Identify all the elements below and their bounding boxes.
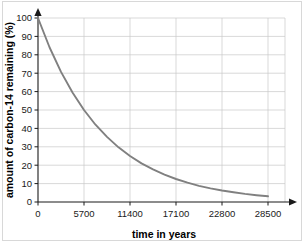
y-axis-tick-labels: 0102030405060708090100 [16,12,32,207]
chart-canvas: 0102030405060708090100 05700114001710022… [0,0,304,245]
x-tick-label: 5700 [73,208,94,219]
y-axis-title: amount of carbon-14 remaining (%) [3,22,15,198]
y-tick-label: 30 [21,141,32,152]
x-axis-tick-labels: 0570011400171002280028500 [35,208,281,219]
x-tick-label: 0 [35,208,40,219]
y-tick-label: 80 [21,49,32,60]
y-tick-label: 0 [27,196,32,207]
y-tick-label: 60 [21,86,32,97]
y-tick-label: 90 [21,31,32,42]
y-tick-label: 10 [21,178,32,189]
x-tick-label: 11400 [117,208,143,219]
y-tick-label: 40 [21,123,32,134]
y-tick-label: 70 [21,68,32,79]
x-tick-label: 22800 [209,208,235,219]
y-tick-label: 100 [16,12,32,23]
x-tick-label: 28500 [255,208,281,219]
x-axis-title: time in years [132,228,196,240]
carbon-14-decay-chart: 0102030405060708090100 05700114001710022… [0,0,304,245]
y-axis-arrowhead [34,8,41,16]
x-axis-arrowhead [289,198,297,205]
x-tick-label: 17100 [163,208,189,219]
y-tick-label: 20 [21,160,32,171]
y-tick-label: 50 [21,104,32,115]
